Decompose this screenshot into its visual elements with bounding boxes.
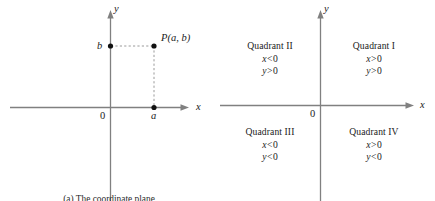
quadrant-2-title: Quadrant II bbox=[226, 40, 314, 53]
quadrant-3-block: Quadrant III x<0 y<0 bbox=[226, 126, 314, 164]
quadrant-3-x-val: 0 bbox=[273, 139, 278, 150]
y-axis-label-a: y bbox=[114, 4, 119, 15]
figure-root: x y 0 a b P(a, b) (a) The coordinate pla… bbox=[0, 0, 435, 201]
point-p-dot bbox=[151, 43, 156, 48]
quadrant-4-x-var: x bbox=[366, 139, 370, 150]
x-axis-arrowhead-a bbox=[181, 104, 190, 110]
quadrant-4-x-condition: x>0 bbox=[330, 139, 418, 152]
x-axis-arrowhead-b bbox=[406, 102, 415, 108]
quadrant-3-y-var: y bbox=[262, 151, 266, 162]
quadrant-1-title: Quadrant I bbox=[330, 40, 418, 53]
y-intercept-b-dot bbox=[108, 43, 113, 48]
origin-label-a: 0 bbox=[100, 111, 105, 122]
caption-panel-a: (a) The coordinate plane bbox=[0, 194, 218, 201]
y-axis-label-b: y bbox=[324, 4, 329, 15]
quadrant-2-y-condition: y>0 bbox=[226, 65, 314, 78]
quadrant-1-y-var: y bbox=[366, 65, 370, 76]
x-tick-label-a: a bbox=[151, 111, 156, 122]
point-p-label: P(a, b) bbox=[161, 33, 190, 44]
y-axis-arrowhead-a bbox=[107, 10, 113, 19]
coordinate-axes-a bbox=[0, 0, 218, 201]
panel-coordinate-plane: x y 0 a b P(a, b) (a) The coordinate pla… bbox=[0, 0, 218, 201]
quadrant-3-y-val: 0 bbox=[273, 151, 278, 162]
quadrant-4-y-val: 0 bbox=[377, 151, 382, 162]
quadrant-1-y-val: 0 bbox=[377, 65, 382, 76]
quadrant-4-y-var: y bbox=[366, 151, 370, 162]
quadrant-3-title: Quadrant III bbox=[226, 126, 314, 139]
quadrant-2-x-var: x bbox=[262, 53, 266, 64]
quadrant-2-block: Quadrant II x<0 y>0 bbox=[226, 40, 314, 78]
quadrant-3-x-var: x bbox=[262, 139, 266, 150]
quadrant-2-x-condition: x<0 bbox=[226, 53, 314, 66]
y-tick-label-b: b bbox=[97, 41, 102, 52]
panel-four-quadrants: x y 0 Quadrant II x<0 y>0 Quadrant I x>0… bbox=[218, 0, 435, 201]
quadrant-1-x-var: x bbox=[366, 53, 370, 64]
origin-label-b: 0 bbox=[310, 109, 315, 120]
quadrant-2-y-var: y bbox=[262, 65, 266, 76]
quadrant-3-y-condition: y<0 bbox=[226, 151, 314, 164]
quadrant-1-x-condition: x>0 bbox=[330, 53, 418, 66]
quadrant-3-x-condition: x<0 bbox=[226, 139, 314, 152]
coordinate-axes-b bbox=[218, 0, 435, 201]
y-axis-arrowhead-b bbox=[317, 10, 323, 19]
quadrant-4-title: Quadrant IV bbox=[330, 126, 418, 139]
quadrant-2-x-val: 0 bbox=[273, 53, 278, 64]
quadrant-2-y-val: 0 bbox=[273, 65, 278, 76]
quadrant-1-y-condition: y>0 bbox=[330, 65, 418, 78]
quadrant-1-block: Quadrant I x>0 y>0 bbox=[330, 40, 418, 78]
quadrant-1-x-val: 0 bbox=[377, 53, 382, 64]
x-axis-label-b: x bbox=[420, 100, 425, 111]
quadrant-4-y-condition: y<0 bbox=[330, 151, 418, 164]
quadrant-4-block: Quadrant IV x>0 y<0 bbox=[330, 126, 418, 164]
quadrant-4-x-val: 0 bbox=[377, 139, 382, 150]
x-axis-label-a: x bbox=[196, 102, 201, 113]
